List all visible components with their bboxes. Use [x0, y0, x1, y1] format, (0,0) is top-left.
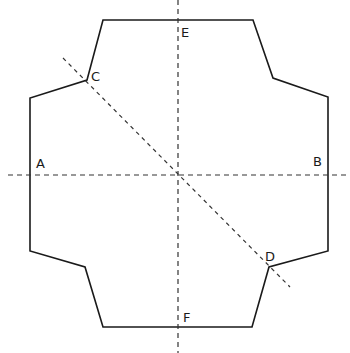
label-f: F	[183, 311, 190, 324]
diagram-canvas: A B C D E F	[0, 0, 350, 353]
label-c: C	[91, 70, 100, 83]
label-e: E	[181, 26, 189, 39]
diagonal-axis-CD	[63, 58, 290, 287]
label-d: D	[265, 250, 275, 263]
diagram-figure	[0, 0, 350, 353]
label-b: B	[313, 155, 322, 168]
label-a: A	[36, 157, 45, 170]
